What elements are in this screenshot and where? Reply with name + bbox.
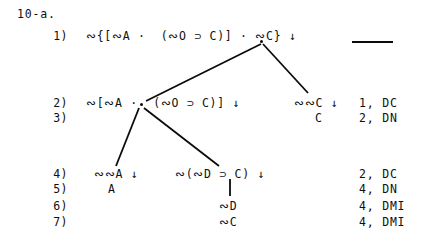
formula-line-2-right: ∾∾C ↓ xyxy=(294,97,338,109)
justification-line-3: 2, DN xyxy=(359,112,398,124)
formula-line-2-left: ∾[∾A · (∾O ⊃ C)] ↓ xyxy=(86,97,240,109)
line-number-6: 6) xyxy=(42,200,68,212)
justification-line-2: 1, DC xyxy=(359,97,398,109)
line-number-7: 7) xyxy=(42,216,68,228)
line-number-2: 2) xyxy=(42,97,68,109)
premise-dash xyxy=(352,41,393,43)
justification-line-5: 4, DN xyxy=(359,183,398,195)
line-number-1: 1) xyxy=(42,30,68,42)
formula-line-1-left: ∾{[∾A · (∾O ⊃ C)] · ∾C} ↓ xyxy=(86,30,297,42)
formula-line-6-right: ∾D xyxy=(219,200,237,212)
exercise-label: 10-a. xyxy=(17,8,56,20)
formula-line-3-right: C xyxy=(315,112,323,124)
line-number-5: 5) xyxy=(42,183,68,195)
justification-line-7: 4, DMI xyxy=(359,216,405,228)
formula-line-4-left: ∾∾A ↓ xyxy=(94,168,138,180)
formula-line-4-right: ∾(∾D ⊃ C) ↓ xyxy=(175,168,265,180)
justification-line-4: 2, DC xyxy=(359,168,398,180)
line-number-3: 3) xyxy=(42,112,68,124)
proof-tree-page: 10-a. 1) ∾{[∾A · (∾O ⊃ C)] · ∾C} ↓ 2) ∾[… xyxy=(0,0,437,239)
formula-line-5-left: A xyxy=(108,183,116,195)
formula-line-7-right: ∾C xyxy=(219,216,237,228)
line-number-4: 4) xyxy=(42,168,68,180)
justification-line-6: 4, DMI xyxy=(359,200,405,212)
